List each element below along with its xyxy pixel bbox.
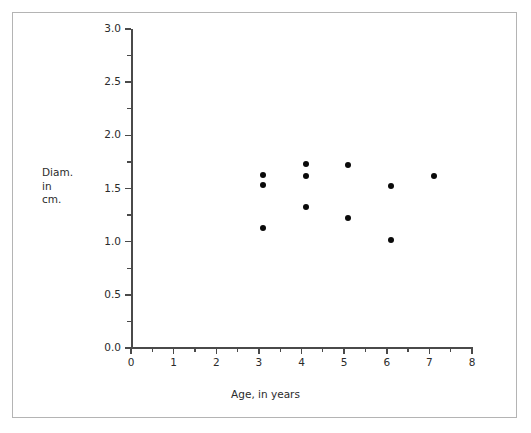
x-tick-label: 4 bbox=[290, 357, 314, 368]
x-tick-minor bbox=[194, 348, 195, 352]
x-tick-label: 0 bbox=[119, 357, 143, 368]
plot-area: 0.00.51.01.52.02.53.0 012345678 Diam.inc… bbox=[0, 0, 531, 433]
y-tick-minor bbox=[127, 161, 131, 162]
x-tick-label: 3 bbox=[247, 357, 271, 368]
data-point bbox=[260, 172, 266, 178]
x-tick-major bbox=[216, 348, 218, 354]
y-tick-label: 0.0 bbox=[81, 342, 121, 353]
scatter-plot-figure: 0.00.51.01.52.02.53.0 012345678 Diam.inc… bbox=[0, 0, 531, 433]
x-tick-major bbox=[173, 348, 175, 354]
data-point bbox=[388, 237, 394, 243]
data-point bbox=[260, 225, 266, 231]
y-tick-major bbox=[125, 28, 131, 30]
y-tick-label: 1.5 bbox=[81, 183, 121, 194]
x-tick-label: 5 bbox=[332, 357, 356, 368]
data-point bbox=[260, 182, 266, 188]
x-tick-label: 6 bbox=[375, 357, 399, 368]
x-tick-minor bbox=[237, 348, 238, 352]
data-point bbox=[303, 173, 309, 179]
x-tick-major bbox=[258, 348, 260, 354]
x-tick-major bbox=[130, 348, 132, 354]
x-tick-major bbox=[471, 348, 473, 354]
x-tick-major bbox=[429, 348, 431, 354]
data-point bbox=[388, 183, 394, 189]
data-point bbox=[345, 162, 351, 168]
y-tick-major bbox=[125, 135, 131, 137]
y-tick-label: 2.0 bbox=[81, 129, 121, 140]
x-tick-label: 2 bbox=[204, 357, 228, 368]
x-tick-label: 8 bbox=[460, 357, 484, 368]
x-tick-major bbox=[301, 348, 303, 354]
y-tick-label: 2.5 bbox=[81, 76, 121, 87]
x-tick-minor bbox=[322, 348, 323, 352]
y-tick-minor bbox=[127, 321, 131, 322]
y-tick-minor bbox=[127, 55, 131, 56]
data-point bbox=[303, 161, 309, 167]
y-tick-label: 1.0 bbox=[81, 236, 121, 247]
x-tick-minor bbox=[407, 348, 408, 352]
x-tick-minor bbox=[365, 348, 366, 352]
y-tick-major bbox=[125, 294, 131, 296]
x-tick-label: 7 bbox=[417, 357, 441, 368]
x-tick-minor bbox=[280, 348, 281, 352]
data-point bbox=[303, 204, 309, 210]
y-axis-line bbox=[131, 29, 133, 349]
y-axis-title: Diam.incm. bbox=[42, 166, 73, 207]
y-tick-label: 3.0 bbox=[81, 23, 121, 34]
y-axis-title-line: cm. bbox=[42, 193, 73, 207]
y-tick-major bbox=[125, 81, 131, 83]
data-point bbox=[345, 215, 351, 221]
x-tick-major bbox=[386, 348, 388, 354]
x-tick-major bbox=[343, 348, 345, 354]
y-tick-major bbox=[125, 241, 131, 243]
y-tick-minor bbox=[127, 214, 131, 215]
x-axis-title: Age, in years bbox=[0, 388, 531, 400]
y-tick-minor bbox=[127, 108, 131, 109]
y-axis-title-line: Diam. bbox=[42, 166, 73, 180]
y-axis-title-line: in bbox=[42, 180, 73, 194]
x-tick-minor bbox=[450, 348, 451, 352]
x-tick-label: 1 bbox=[162, 357, 186, 368]
y-tick-major bbox=[125, 188, 131, 190]
data-point bbox=[431, 173, 437, 179]
x-tick-minor bbox=[152, 348, 153, 352]
y-tick-label: 0.5 bbox=[81, 289, 121, 300]
y-tick-minor bbox=[127, 268, 131, 269]
